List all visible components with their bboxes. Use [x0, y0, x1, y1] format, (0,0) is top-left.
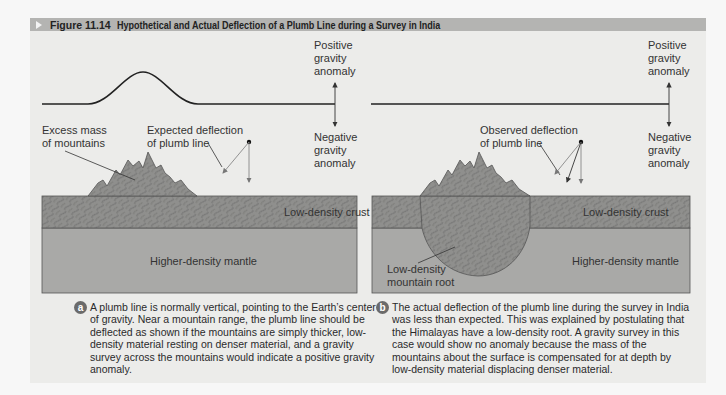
svg-text:Positive: Positive: [648, 39, 687, 51]
svg-text:gravity: gravity: [314, 52, 347, 64]
svg-text:Expected deflection: Expected deflection: [147, 124, 243, 136]
svg-text:gravity: gravity: [314, 144, 347, 156]
svg-text:anomaly: anomaly: [314, 157, 356, 169]
caption-b-text: The actual deflection of the plumb line …: [392, 301, 692, 375]
svg-text:Positive: Positive: [314, 39, 353, 51]
gravity-profile-a: [42, 72, 335, 104]
svg-text:Low-density: Low-density: [387, 263, 446, 275]
expected-deflection-a: [223, 142, 249, 173]
mountain-a: [88, 152, 197, 196]
mantle-label-b: Higher-density mantle: [572, 255, 679, 267]
caption-a: a A plumb line is normally vertical, poi…: [90, 301, 380, 375]
svg-text:anomaly: anomaly: [648, 65, 690, 77]
panel-b: Positive gravity anomaly Negative gravit…: [371, 39, 691, 293]
svg-text:anomaly: anomaly: [314, 65, 356, 77]
caption-a-text: A plumb line is normally vertical, point…: [90, 301, 380, 375]
svg-text:Negative: Negative: [314, 131, 357, 143]
badge-a-icon: a: [74, 301, 87, 314]
badge-b-icon: b: [376, 301, 389, 314]
svg-text:of plumb line: of plumb line: [147, 137, 209, 149]
svg-text:Excess mass: Excess mass: [42, 124, 107, 136]
figure: Figure 11.14 Hypothetical and Actual Def…: [30, 18, 706, 383]
crust-label-a: Low-density crust: [284, 206, 370, 218]
svg-text:Negative: Negative: [648, 131, 691, 143]
svg-text:of mountains: of mountains: [42, 137, 105, 149]
svg-text:mountain root: mountain root: [387, 276, 454, 288]
svg-text:gravity: gravity: [648, 52, 681, 64]
svg-text:anomaly: anomaly: [648, 157, 690, 169]
mountain-b: [420, 152, 530, 196]
svg-text:of plumb line: of plumb line: [480, 137, 542, 149]
svg-text:gravity: gravity: [648, 144, 681, 156]
observed-deflection-b: [567, 142, 581, 182]
panel-a: Positive gravity anomaly Negative gravit…: [42, 39, 370, 293]
excess-mass-leader: [65, 151, 135, 180]
deflection-leader-b: [539, 143, 560, 175]
caption-b: b The actual deflection of the plumb lin…: [392, 301, 692, 375]
svg-text:Observed deflection: Observed deflection: [480, 124, 578, 136]
crust-label-b: Low-density crust: [583, 206, 669, 218]
expected-deflection-b: [555, 142, 581, 174]
deflection-leader-a: [208, 143, 222, 167]
mantle-label-a: Higher-density mantle: [150, 255, 257, 267]
